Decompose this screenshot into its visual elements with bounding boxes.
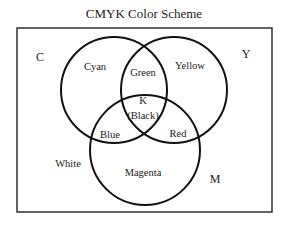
region-black-name: (Black)	[127, 110, 159, 122]
region-black-k: K	[139, 95, 147, 107]
cyan-circle	[61, 37, 167, 143]
region-magenta: Magenta	[125, 167, 162, 179]
region-yellow: Yellow	[175, 60, 205, 72]
region-white: White	[55, 158, 81, 170]
set-label-y: Y	[242, 48, 251, 60]
set-label-m: M	[210, 173, 221, 185]
set-label-c: C	[36, 51, 44, 63]
region-cyan: Cyan	[84, 61, 106, 73]
region-green: Green	[130, 67, 156, 79]
region-blue: Blue	[100, 129, 120, 141]
region-red: Red	[170, 128, 187, 140]
